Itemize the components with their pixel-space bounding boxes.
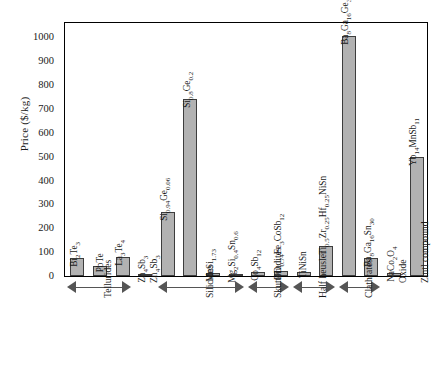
price-bar-chart-figure: Price ($/kg) 010020030040050060070080090…: [0, 0, 447, 367]
group-label: Skutterudites: [273, 247, 283, 298]
group-bracket: [248, 281, 289, 293]
y-tick-label: 600: [38, 128, 54, 139]
bar-label: Ba8Ga16Ge30: [342, 0, 354, 45]
y-tick-label: 1000: [33, 32, 54, 43]
bar-label: La3Te4: [115, 240, 127, 266]
group-label: Oxide: [398, 260, 408, 283]
group-bracket: [158, 281, 245, 293]
bar: [161, 212, 175, 276]
y-tick-label: 800: [38, 80, 54, 91]
bar-label: Yb14MnSb11: [409, 118, 421, 166]
plot-area: Bi2Te3PbTeLa3Te4Zn4Sb3Si0.94Ge0.06Si0.8G…: [64, 22, 428, 277]
y-tick-label: 100: [38, 247, 54, 258]
group-label: Silicides: [205, 265, 215, 298]
y-tick-label: 400: [38, 175, 54, 186]
bar-label: Si0.94Ge0.06: [161, 177, 173, 220]
bar-label: Si0.8Ge0.2: [183, 72, 195, 108]
bar-label: Mg2Si0.4Sn0.6: [228, 231, 240, 283]
y-axis-tick-labels: 01002003004005006007008009001000: [0, 22, 60, 277]
y-tick-label: 200: [38, 223, 54, 234]
y-tick-label: 500: [38, 151, 54, 162]
bar: [342, 36, 356, 276]
bar-label: Ti0.5Zr0.25Hf0.25NiSn: [319, 176, 331, 255]
bar-label: Co4Sb12: [251, 250, 263, 281]
group-label: Half heusler: [318, 251, 328, 298]
group-label: Zintl compound: [420, 221, 430, 283]
bar-label: TiNiSn: [299, 251, 308, 278]
group-label: Tellurides: [103, 260, 113, 298]
group-label: Clathrates: [364, 259, 374, 298]
group-label: Zn4Sb3: [149, 255, 162, 283]
y-tick-label: 300: [38, 199, 54, 210]
group-bracket: [293, 281, 334, 293]
y-tick-label: 0: [49, 271, 54, 282]
bar-label: Bi2Te3: [70, 242, 82, 267]
category-brackets: TelluridesZn4Sb3SilicidesSkutteruditesHa…: [64, 279, 428, 367]
y-tick-label: 900: [38, 56, 54, 67]
bars-container: Bi2Te3PbTeLa3Te4Zn4Sb3Si0.94Ge0.06Si0.8G…: [65, 23, 429, 276]
group-bracket: [67, 281, 131, 293]
bar: [183, 99, 197, 276]
y-tick-label: 700: [38, 104, 54, 115]
